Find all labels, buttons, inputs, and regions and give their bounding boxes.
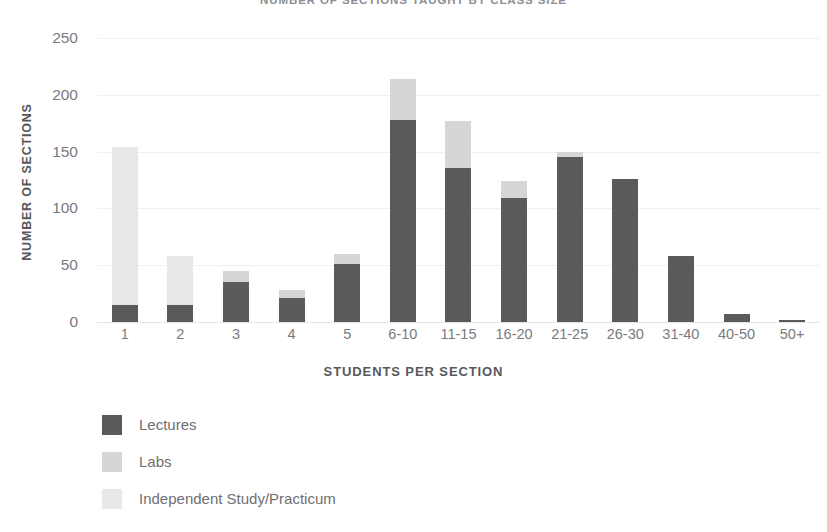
bar-group[interactable] <box>209 38 264 322</box>
bar-group[interactable] <box>653 38 708 322</box>
bar-stack[interactable] <box>334 254 360 322</box>
legend-item[interactable]: Lectures <box>102 406 336 443</box>
chart-title: NUMBER OF SECTIONS TAUGHT BY CLASS SIZE <box>0 0 827 6</box>
bar-segment[interactable] <box>390 79 416 120</box>
bar-series-container <box>97 38 820 322</box>
bar-segment[interactable] <box>334 264 360 322</box>
x-axis-tick-label: 11-15 <box>431 326 486 342</box>
y-axis-tick-label: 100 <box>18 199 78 217</box>
y-axis-tick-label: 50 <box>18 256 78 274</box>
bar-segment[interactable] <box>445 121 471 168</box>
legend-swatch <box>102 452 122 472</box>
bar-stack[interactable] <box>557 152 583 322</box>
bar-group[interactable] <box>542 38 597 322</box>
x-axis-tick-label: 1 <box>97 326 152 342</box>
bar-stack[interactable] <box>612 179 638 322</box>
bar-group[interactable] <box>97 38 152 322</box>
bar-segment[interactable] <box>223 271 249 282</box>
x-axis-tick-label: 26-30 <box>598 326 653 342</box>
bar-stack[interactable] <box>668 256 694 322</box>
bar-stack[interactable] <box>501 181 527 322</box>
bar-stack[interactable] <box>167 256 193 322</box>
legend-item[interactable]: Labs <box>102 443 336 480</box>
legend-swatch <box>102 489 122 509</box>
bar-segment[interactable] <box>501 181 527 198</box>
bar-stack[interactable] <box>279 290 305 322</box>
legend-swatch <box>102 415 122 435</box>
legend-label: Labs <box>139 453 172 470</box>
bar-segment[interactable] <box>167 256 193 305</box>
legend-label: Independent Study/Practicum <box>139 490 336 507</box>
bar-group[interactable] <box>709 38 764 322</box>
bar-segment[interactable] <box>390 120 416 322</box>
bar-segment[interactable] <box>112 147 138 305</box>
bar-stack[interactable] <box>779 320 805 322</box>
bar-segment[interactable] <box>167 305 193 322</box>
y-axis-tick-label: 200 <box>18 86 78 104</box>
bar-stack[interactable] <box>724 314 750 322</box>
bar-group[interactable] <box>487 38 542 322</box>
bar-stack[interactable] <box>223 271 249 322</box>
bar-segment[interactable] <box>223 282 249 322</box>
x-axis-tick-labels: 123456-1011-1516-2021-2526-3031-4040-505… <box>97 326 820 342</box>
plot-area: 050100150200250 <box>97 38 820 322</box>
x-axis-tick-label: 5 <box>320 326 375 342</box>
y-axis-tick-label: 150 <box>18 143 78 161</box>
bar-segment[interactable] <box>112 305 138 322</box>
x-axis-tick-label: 40-50 <box>709 326 764 342</box>
bar-segment[interactable] <box>557 157 583 322</box>
bar-segment[interactable] <box>279 290 305 298</box>
bar-group[interactable] <box>264 38 319 322</box>
bar-segment[interactable] <box>334 254 360 264</box>
bar-segment[interactable] <box>501 198 527 322</box>
bar-group[interactable] <box>153 38 208 322</box>
x-axis-tick-label: 31-40 <box>653 326 708 342</box>
bar-segment[interactable] <box>445 168 471 322</box>
bar-group[interactable] <box>320 38 375 322</box>
gridline <box>97 322 820 323</box>
y-axis-tick-label: 250 <box>18 29 78 47</box>
bar-group[interactable] <box>431 38 486 322</box>
bar-stack[interactable] <box>390 79 416 322</box>
bar-group[interactable] <box>375 38 430 322</box>
y-axis-tick-label: 0 <box>18 313 78 331</box>
bar-segment[interactable] <box>724 314 750 322</box>
x-axis-title: STUDENTS PER SECTION <box>0 364 827 379</box>
x-axis-tick-label: 16-20 <box>487 326 542 342</box>
bar-stack[interactable] <box>445 121 471 322</box>
x-axis-tick-label: 4 <box>264 326 319 342</box>
bar-segment[interactable] <box>612 179 638 322</box>
x-axis-tick-label: 2 <box>153 326 208 342</box>
legend-item[interactable]: Independent Study/Practicum <box>102 480 336 517</box>
bar-group[interactable] <box>765 38 820 322</box>
x-axis-tick-label: 50+ <box>765 326 820 342</box>
bar-stack[interactable] <box>112 147 138 322</box>
bar-group[interactable] <box>598 38 653 322</box>
bar-segment[interactable] <box>279 298 305 322</box>
chart-legend: LecturesLabsIndependent Study/Practicum <box>102 406 336 517</box>
bar-segment[interactable] <box>668 256 694 322</box>
bar-segment[interactable] <box>779 320 805 322</box>
x-axis-tick-label: 6-10 <box>375 326 430 342</box>
x-axis-tick-label: 21-25 <box>542 326 597 342</box>
legend-label: Lectures <box>139 416 197 433</box>
x-axis-tick-label: 3 <box>209 326 264 342</box>
